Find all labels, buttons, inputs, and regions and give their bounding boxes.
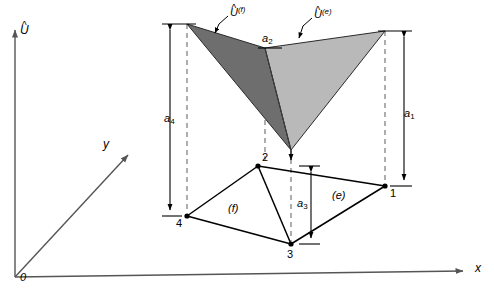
x-axis-label: x — [475, 262, 481, 274]
dimension-a1-subscript: 1 — [410, 112, 414, 121]
dimension-label-a2: a2 — [262, 33, 273, 46]
node-marker-1 — [382, 183, 387, 188]
node-marker-4 — [184, 213, 189, 218]
x-axis-line — [15, 271, 463, 277]
surface-e-label: ^U(e) — [314, 8, 332, 20]
origin-label: 0 — [20, 272, 26, 283]
base-mesh-group — [187, 166, 385, 244]
dimension-label-a1: a1 — [404, 108, 415, 121]
mesh-edge-3-4 — [187, 216, 291, 244]
leader-surface-e — [299, 18, 312, 38]
node-label-1: 1 — [390, 188, 396, 199]
figure-container: ^U y x 0 ^U(f) ^U(e) a4 a1 a2 a3 1 2 3 4… — [0, 0, 494, 288]
dimension-label-a3: a3 — [297, 198, 308, 211]
node-markers-group — [184, 163, 387, 246]
node-marker-3 — [288, 241, 293, 246]
surface-group — [187, 24, 385, 150]
surface-e-superscript: (e) — [322, 7, 332, 16]
surface-f-superscript: (f) — [238, 5, 246, 14]
node-label-2: 2 — [262, 152, 268, 163]
surface-e-hat-accent: ^ — [316, 6, 321, 16]
leader-surface-f — [215, 16, 228, 33]
mesh-edge-4-2 — [187, 166, 258, 216]
y-axis-line — [15, 155, 128, 277]
surface-f-hat-accent: ^ — [232, 4, 237, 14]
u-hat-axis-label: ^U — [20, 24, 29, 36]
node-marker-2 — [255, 163, 260, 168]
dimension-label-a4: a4 — [164, 113, 175, 126]
region-label-f: (f) — [228, 203, 238, 214]
dimension-a4-subscript: 4 — [170, 117, 174, 126]
y-axis-label: y — [103, 138, 109, 150]
dimension-a2-subscript: 2 — [268, 37, 272, 46]
node-label-3: 3 — [287, 249, 293, 260]
mesh-edge-2-3-diagonal — [258, 166, 291, 244]
dimension-a3-subscript: 3 — [303, 202, 307, 211]
diagram-canvas — [0, 0, 494, 288]
surface-f-label: ^U(f) — [230, 6, 246, 18]
node-label-4: 4 — [176, 218, 182, 229]
u-hat-accent: ^ — [22, 21, 27, 31]
mesh-edge-2-1 — [258, 166, 385, 186]
region-label-e: (e) — [332, 190, 345, 201]
